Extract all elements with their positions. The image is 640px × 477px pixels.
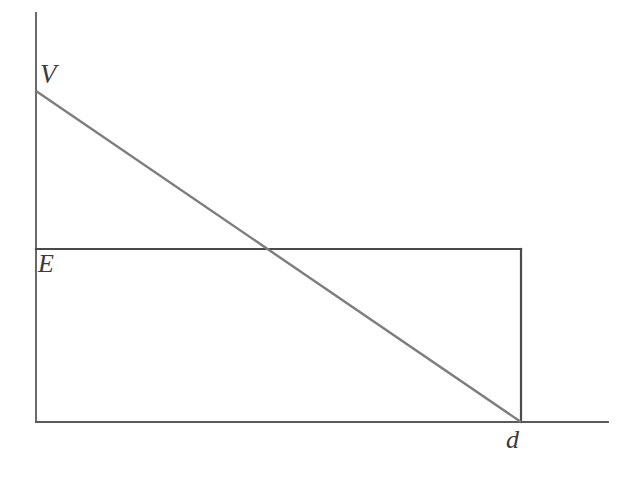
diagram-canvas [0, 0, 640, 477]
label-v: V [40, 61, 57, 88]
economics-diagram: V E d [0, 0, 640, 477]
label-e: E [38, 251, 54, 277]
demand-curve [36, 91, 521, 422]
label-d: d [506, 427, 519, 453]
